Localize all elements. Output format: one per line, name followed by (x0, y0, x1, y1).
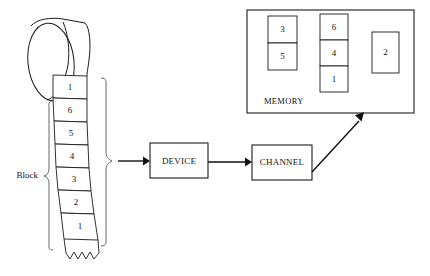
tape-cell: 1 (53, 75, 87, 99)
memory-group-2: 6 4 1 (320, 14, 348, 92)
tape-cell: 3 (56, 167, 91, 191)
tape-cell: 6 (53, 98, 87, 122)
block-label: Block (17, 170, 39, 180)
channel-box: CHANNEL (252, 145, 312, 180)
tape-cell-value: 6 (68, 105, 73, 115)
arrow-channel-to-memory (312, 112, 364, 172)
block-brace-group: Block (17, 101, 54, 250)
memory-group-1: 3 5 (268, 16, 297, 70)
tape-cell-value: 1 (78, 221, 83, 231)
tape-cell: 4 (55, 144, 89, 168)
memory-cell: 6 (320, 14, 348, 40)
memory-cell-value: 1 (332, 74, 337, 84)
device-box: DEVICE (150, 143, 208, 178)
memory-group-3: 2 (372, 32, 399, 73)
memory-cell-value: 2 (383, 47, 388, 57)
memory-cell: 5 (268, 43, 297, 70)
tape-cell-value: 5 (69, 128, 74, 138)
tape-cell-value: 2 (74, 197, 79, 207)
memory-cell-value: 3 (280, 24, 285, 34)
diagram-canvas: 1 6 5 4 3 (0, 0, 430, 276)
tape-strip: 1 6 5 4 3 (53, 75, 99, 259)
tape-cell: 5 (54, 121, 88, 145)
memory-box: MEMORY 3 5 6 4 (247, 10, 414, 113)
memory-cell-value: 4 (332, 48, 337, 58)
memory-cell-value: 5 (280, 51, 285, 61)
memory-label: MEMORY (264, 96, 304, 106)
memory-cell: 2 (372, 32, 399, 73)
tape-cell: 2 (58, 190, 94, 214)
arrow-tape-to-device (118, 157, 150, 166)
memory-cell-value: 6 (332, 22, 337, 32)
memory-cell: 4 (320, 40, 348, 66)
arrow-device-to-channel (208, 158, 252, 167)
tape-cell-value: 1 (68, 82, 73, 92)
tape-cell: 1 (61, 213, 98, 240)
memory-cell: 1 (320, 66, 348, 92)
channel-label: CHANNEL (260, 157, 304, 167)
diagram-svg: 1 6 5 4 3 (0, 0, 430, 276)
device-label: DEVICE (162, 156, 196, 166)
tape-group-brace (101, 78, 112, 246)
tape-cell-value: 3 (72, 174, 77, 184)
memory-cell: 3 (268, 16, 297, 43)
tape-cell-value: 4 (70, 151, 75, 161)
